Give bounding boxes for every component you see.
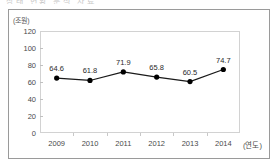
data-point-label: 74.7 bbox=[216, 56, 231, 65]
x-axis-tick-marks bbox=[40, 133, 240, 136]
data-point-label: 64.6 bbox=[49, 64, 64, 73]
x-axis-tick-mark bbox=[140, 133, 141, 136]
x-axis-unit-label: (연도) bbox=[243, 139, 262, 150]
x-axis-tick-mark bbox=[173, 133, 174, 136]
clipped-header-text: 상태 현황 분석 자료 bbox=[6, 0, 156, 4]
x-axis-tick-mark bbox=[207, 133, 208, 136]
data-point-label: 61.8 bbox=[83, 66, 98, 75]
y-axis-unit-label: (조원) bbox=[13, 15, 30, 25]
data-point-label: 60.5 bbox=[183, 68, 198, 77]
data-point-label: 65.8 bbox=[149, 63, 164, 72]
y-axis-tick-label: 20 bbox=[28, 112, 36, 121]
data-value-labels: 64.661.871.965.860.574.7 bbox=[40, 31, 240, 133]
x-axis-tick-label: 2009 bbox=[48, 139, 65, 148]
y-axis-tick-labels: 120100806040200 bbox=[18, 31, 36, 133]
x-axis-tick-label: 2011 bbox=[115, 139, 131, 148]
x-axis-tick-label: 2010 bbox=[82, 139, 99, 148]
x-axis-tick-mark bbox=[73, 133, 74, 136]
y-axis-tick-label: 40 bbox=[28, 95, 36, 104]
y-axis-tick-label: 0 bbox=[32, 129, 36, 138]
y-axis-tick-label: 120 bbox=[23, 27, 36, 36]
x-axis-tick-label: 2012 bbox=[148, 139, 165, 148]
y-axis-tick-label: 80 bbox=[28, 61, 36, 70]
x-axis-tick-mark bbox=[107, 133, 108, 136]
x-axis-tick-labels: 200920102011201220132014 bbox=[40, 139, 250, 151]
x-axis-tick-label: 2014 bbox=[215, 139, 232, 148]
y-axis-tick-label: 60 bbox=[28, 78, 36, 87]
y-axis-tick-label: 100 bbox=[23, 44, 36, 53]
x-axis-tick-label: 2013 bbox=[182, 139, 199, 148]
data-point-label: 71.9 bbox=[116, 58, 131, 67]
